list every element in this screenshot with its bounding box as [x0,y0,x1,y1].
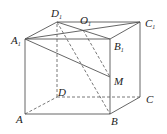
label-B1: B1 [114,40,124,53]
label-M: M [113,75,124,87]
edge-BC [110,97,140,114]
label-D1: D1 [50,7,62,20]
segment-O1M [83,30,110,77]
label-A: A [15,113,23,125]
cube-diagram: D1 O1 C1 A1 B1 M D C A B [0,0,167,134]
label-C1: C1 [145,17,155,30]
segment-D1B [57,22,110,114]
label-O1: O1 [80,14,91,27]
label-D: D [57,86,66,98]
label-B: B [111,115,118,127]
segment-A1M [25,39,110,77]
label-A1: A1 [10,34,21,47]
label-C: C [146,93,154,105]
edge-AD [25,97,57,114]
